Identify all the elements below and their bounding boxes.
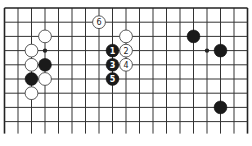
- star-point: [205, 48, 209, 52]
- white-stone: [120, 30, 133, 43]
- black-stone-shape: [39, 58, 52, 71]
- black-stone: [187, 30, 200, 43]
- white-stone-shape: [25, 44, 38, 57]
- move-number: 3: [110, 61, 116, 70]
- black-stone-shape: [214, 101, 227, 114]
- black-stone-shape: [214, 44, 227, 57]
- black-stone: [25, 73, 38, 86]
- white-stone: [39, 73, 52, 86]
- black-stone-move-5: 5: [106, 73, 119, 86]
- black-stone: [214, 101, 227, 114]
- move-number: 1: [110, 47, 116, 56]
- white-stone-shape: [120, 30, 133, 43]
- white-stone: [25, 58, 38, 71]
- move-number: 2: [123, 47, 128, 56]
- move-number: 6: [96, 18, 101, 27]
- white-stone-shape: [39, 73, 52, 86]
- white-stone-shape: [25, 58, 38, 71]
- move-number: 4: [123, 61, 128, 70]
- white-stone-move-4: 4: [120, 58, 133, 71]
- black-stone-shape: [25, 73, 38, 86]
- white-stone-move-2: 2: [120, 44, 133, 57]
- white-stone: [25, 87, 38, 100]
- star-point: [43, 48, 47, 52]
- black-stone: [214, 44, 227, 57]
- go-board: 612345: [0, 0, 252, 146]
- white-stone-shape: [25, 87, 38, 100]
- black-stone: [39, 58, 52, 71]
- black-stone-move-3: 3: [106, 58, 119, 71]
- move-number: 5: [110, 75, 116, 84]
- white-stone-move-6: 6: [93, 16, 106, 29]
- white-stone-shape: [39, 30, 52, 43]
- black-stone-shape: [187, 30, 200, 43]
- black-stone-move-1: 1: [106, 44, 119, 57]
- white-stone: [25, 44, 38, 57]
- white-stone: [39, 30, 52, 43]
